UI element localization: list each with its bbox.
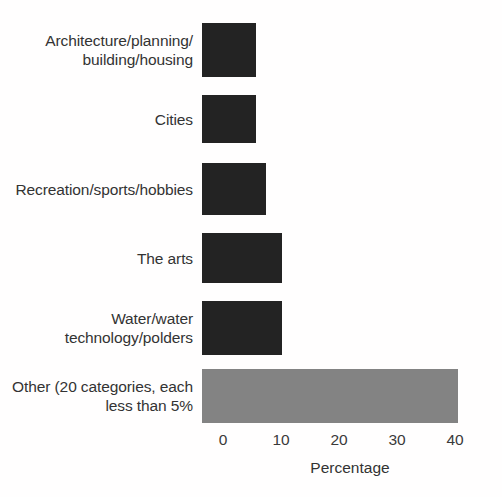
x-tick-label: 10 xyxy=(272,430,289,450)
category-label: The arts xyxy=(0,249,202,268)
x-axis: 0 10 20 30 40 xyxy=(0,430,502,456)
bar-row: Recreation/sports/hobbies xyxy=(0,163,502,215)
x-axis-title: Percentage xyxy=(219,458,481,478)
x-tick-label: 30 xyxy=(388,430,405,450)
bar-chart: Architecture/planning/ building/housing … xyxy=(0,0,502,497)
category-label: Water/water technology/polders xyxy=(0,309,202,347)
bar-track xyxy=(202,369,502,423)
category-label: Cities xyxy=(0,110,202,129)
bar xyxy=(202,369,458,423)
bar xyxy=(202,163,266,215)
bar-row: Water/water technology/polders xyxy=(0,301,502,355)
bar-row: Cities xyxy=(0,95,502,143)
bar xyxy=(202,233,282,283)
x-tick-label: 40 xyxy=(446,430,463,450)
bar-track xyxy=(202,301,502,355)
category-label: Recreation/sports/hobbies xyxy=(0,180,202,199)
bar-track xyxy=(202,19,502,81)
bar-track xyxy=(202,233,502,283)
bar xyxy=(202,301,282,355)
bar-row: The arts xyxy=(0,233,502,283)
category-label: Other (20 categories, each less than 5% xyxy=(0,377,202,415)
bar-track xyxy=(202,163,502,215)
x-tick-label: 20 xyxy=(330,430,347,450)
x-tick-label: 0 xyxy=(219,430,228,450)
bar-track xyxy=(202,95,502,143)
bar xyxy=(202,95,256,143)
category-label: Architecture/planning/ building/housing xyxy=(0,31,202,69)
bar-row: Other (20 categories, each less than 5% xyxy=(0,369,502,423)
bar xyxy=(202,23,256,77)
bar-row: Architecture/planning/ building/housing xyxy=(0,19,502,81)
